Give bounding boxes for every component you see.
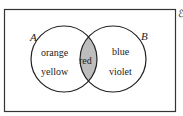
universal-set-label: ℰ (178, 8, 183, 19)
set-a-label: A (29, 31, 37, 43)
set-b-label: B (141, 30, 148, 42)
set-b-item: blue (112, 46, 130, 57)
set-a-item: yellow (41, 66, 69, 77)
set-a-item: orange (41, 47, 69, 58)
venn-diagram: ℰ A B orange yellow red blue violet (0, 0, 183, 116)
set-b-item: violet (109, 66, 132, 77)
intersection-item: red (79, 55, 92, 66)
